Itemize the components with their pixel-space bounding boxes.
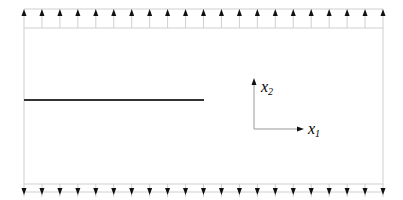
up-arrow-icon (363, 9, 368, 16)
up-arrow-icon (57, 9, 62, 16)
up-arrow-icon (327, 9, 332, 16)
up-arrow-icon (22, 9, 27, 16)
x2-arrowhead-icon (252, 78, 257, 85)
diagram-canvas: x2 x1 (0, 0, 403, 200)
bottom-traction-arrows (22, 184, 386, 197)
up-arrow-icon (345, 9, 350, 16)
up-arrow-icon (75, 9, 80, 16)
up-arrow-icon (309, 9, 314, 16)
up-arrow-icon (183, 9, 188, 16)
up-arrow-icon (273, 9, 278, 16)
coordinate-axes: x2 x1 (252, 78, 321, 139)
up-arrow-icon (147, 9, 152, 16)
x1-label: x1 (307, 120, 320, 139)
plate-body (24, 28, 383, 184)
x2-label: x2 (260, 78, 273, 97)
up-arrow-icon (39, 9, 44, 16)
up-arrow-icon (129, 9, 134, 16)
up-arrow-icon (255, 9, 260, 16)
x1-arrowhead-icon (297, 127, 304, 132)
up-arrow-icon (237, 9, 242, 16)
up-arrow-icon (219, 9, 224, 16)
up-arrow-icon (111, 9, 116, 16)
top-traction-arrows (22, 9, 386, 28)
up-arrow-icon (381, 9, 386, 16)
up-arrow-icon (165, 9, 170, 16)
up-arrow-icon (291, 9, 296, 16)
up-arrow-icon (93, 9, 98, 16)
up-arrow-icon (201, 9, 206, 16)
